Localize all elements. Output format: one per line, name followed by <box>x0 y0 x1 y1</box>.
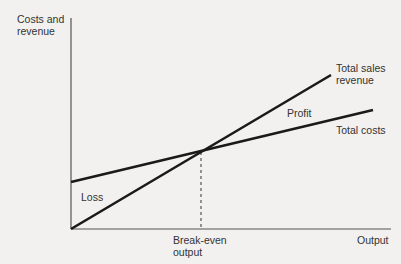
profit-label: Profit <box>287 107 312 119</box>
loss-label: Loss <box>81 191 103 203</box>
break-even-chart: Costs and revenue Total sales revenue Pr… <box>0 0 401 264</box>
total-sales-revenue-label: Total sales revenue <box>336 62 386 86</box>
breakeven-label-line1: Break-even <box>173 234 227 246</box>
total-costs-line <box>71 110 373 182</box>
sales-label-line1: Total sales <box>336 62 386 74</box>
breakeven-label-line2: output <box>173 246 227 258</box>
total-sales-revenue-line <box>71 75 331 229</box>
sales-label-line2: revenue <box>336 74 386 86</box>
x-axis-label: Output <box>357 234 389 246</box>
break-even-output-label: Break-even output <box>173 234 227 258</box>
total-costs-label: Total costs <box>336 124 386 136</box>
y-axis-label-line2: revenue <box>17 25 64 37</box>
y-axis-label: Costs and revenue <box>17 13 64 37</box>
y-axis-label-line1: Costs and <box>17 13 64 25</box>
